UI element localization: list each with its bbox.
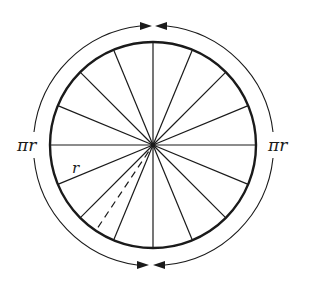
spoke — [153, 145, 226, 218]
spoke — [153, 72, 226, 145]
spoke — [80, 72, 153, 145]
arrowhead-icon — [155, 22, 167, 30]
arrowhead-icon — [137, 261, 149, 269]
arc-lower-left — [34, 158, 137, 265]
circle-diagram: πr πr r — [0, 0, 309, 289]
label-left-arc: πr — [16, 135, 37, 155]
label-radius: r — [72, 159, 80, 177]
label-right-arc: πr — [267, 135, 288, 155]
bottom-arrows — [137, 261, 165, 269]
arrowhead-icon — [140, 22, 152, 30]
top-arrows — [140, 22, 167, 30]
spoke — [80, 145, 153, 218]
arc-upper-right — [167, 26, 273, 132]
center-point — [151, 143, 156, 148]
arrowhead-icon — [153, 261, 165, 269]
